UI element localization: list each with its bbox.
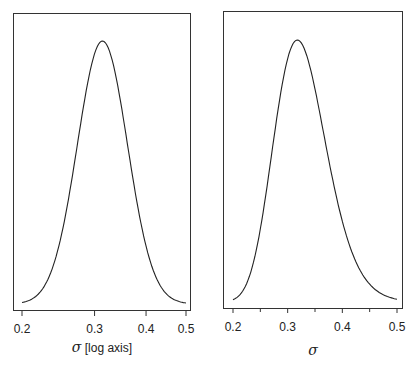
x-tick-label: 0.5	[178, 322, 195, 336]
x-tick-label: 0.4	[334, 320, 351, 334]
right-xlabel: σ	[308, 342, 318, 358]
left-plot-frame	[14, 14, 191, 311]
x-tick-label: 0.3	[279, 320, 296, 334]
right-x-axis: 0.20.30.40.5	[225, 308, 406, 334]
x-tick-label: 0.2	[225, 320, 242, 334]
left-density-curve	[22, 41, 186, 303]
x-tick-label: 0.3	[86, 322, 103, 336]
left-xlabel-suffix: [log axis]	[81, 341, 132, 355]
x-tick-label: 0.2	[14, 322, 31, 336]
left-panel: 0.20.30.40.5 σ [log axis]	[14, 14, 195, 356]
x-tick-label: 0.5	[389, 320, 406, 334]
chart-canvas: 0.20.30.40.5 σ [log axis] 0.20.30.40.5 σ	[0, 0, 418, 365]
x-tick-label: 0.4	[138, 322, 155, 336]
right-density-curve	[233, 40, 397, 300]
sigma-symbol: σ	[72, 339, 82, 355]
right-plot-frame	[224, 12, 403, 309]
left-x-axis: 0.20.30.40.5	[14, 311, 195, 336]
right-panel: 0.20.30.40.5 σ	[224, 12, 406, 359]
left-xlabel: σ [log axis]	[72, 339, 132, 355]
